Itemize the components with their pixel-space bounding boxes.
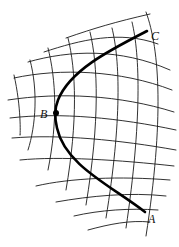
grid-line (48, 48, 55, 170)
grid-line (56, 194, 166, 202)
grid-lines (8, 12, 176, 236)
curvilinear-grid-diagram: A B C (0, 0, 179, 247)
label-c: C (151, 29, 160, 43)
grid-line (28, 53, 170, 70)
grid-line (66, 14, 150, 38)
grid-line (146, 12, 158, 236)
grid-line (8, 96, 174, 112)
grid-line (66, 38, 75, 190)
point-b-dot (53, 110, 59, 116)
grid-line (88, 221, 150, 230)
label-a: A (147, 212, 156, 226)
grid-line (10, 116, 176, 130)
grid-line (14, 72, 172, 90)
grid-line (14, 75, 20, 136)
grid-line (126, 22, 138, 228)
grid-line (44, 37, 158, 52)
label-b: B (40, 107, 48, 121)
grid-line (20, 158, 174, 166)
